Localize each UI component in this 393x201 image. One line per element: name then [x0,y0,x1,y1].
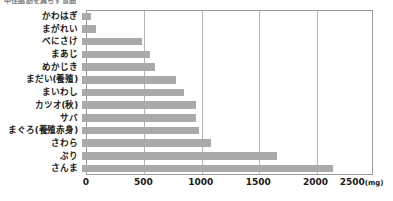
bar-row: まがれい [0,23,393,36]
bar-track [82,48,369,61]
bar-row: かわはぎ [0,10,393,23]
bar [82,89,184,97]
bar-track [82,61,369,74]
category-label: まがれい [0,25,82,34]
category-label: ぶり [0,152,82,161]
bar-track [82,99,369,112]
bar [82,114,196,122]
bar-track [82,162,369,175]
bar [82,127,199,135]
x-tick-label-2000: 2000 [303,178,328,187]
bar-track [82,124,369,137]
category-label: まあじ [0,50,82,59]
x-axis: 05001000150020002500(mg) [0,178,393,192]
x-tick-value: 2500 [340,177,365,187]
x-tick-value: 2000 [303,177,328,187]
x-tick-value: 0 [83,177,89,187]
bar-row: ぶり [0,150,393,163]
bar-row: まいわし [0,86,393,99]
bar-rows: かわはぎまがれいべにさけまあじめかじきまだい(養殖)まいわしカツオ(秋)サバまぐ… [0,10,393,175]
bar-track [82,86,369,99]
bar [82,25,96,33]
x-tick-value: 1000 [188,177,213,187]
category-label: まだい(養殖) [0,75,82,84]
bar [82,63,155,71]
bar-track [82,137,369,150]
bar-row: さんま [0,162,393,175]
x-tick-value: 500 [134,177,153,187]
category-label: べにさけ [0,37,82,46]
x-tick-label-1000: 1000 [188,178,213,187]
category-label: めかじき [0,63,82,72]
bar-track [82,23,369,36]
bar [82,165,333,173]
bar-row: べにさけ [0,35,393,48]
x-tick-label-0: 0 [83,178,89,187]
category-label: まいわし [0,88,82,97]
bar [82,101,196,109]
clipped-caption: 中性脂肪を減らす食品 [4,0,124,4]
bar [82,38,142,46]
bar-track [82,35,369,48]
x-tick-value: 1500 [246,177,271,187]
bar [82,76,176,84]
bar-row: まぐろ(養殖赤身) [0,124,393,137]
x-tick-label-2500: 2500(mg) [340,178,384,187]
bar-row: サバ [0,112,393,125]
bar-track [82,10,369,23]
bar-row: カツオ(秋) [0,99,393,112]
chart-figure: 中性脂肪を減らす食品 かわはぎまがれいべにさけまあじめかじきまだい(養殖)まいわ… [0,0,393,201]
x-tick-label-1500: 1500 [246,178,271,187]
bar [82,139,211,147]
bar [82,13,91,21]
bar-track [82,150,369,163]
category-label: さんま [0,164,82,173]
category-label: さわら [0,139,82,148]
bar-row: めかじき [0,61,393,74]
category-label: かわはぎ [0,12,82,21]
bar-row: まあじ [0,48,393,61]
x-tick-label-500: 500 [134,178,153,187]
category-label: カツオ(秋) [0,101,82,110]
bar-track [82,73,369,86]
bar [82,51,150,59]
bar-row: まだい(養殖) [0,73,393,86]
category-label: サバ [0,114,82,123]
bar [82,152,277,160]
category-label: まぐろ(養殖赤身) [0,126,82,135]
x-axis-unit-label: (mg) [365,179,384,187]
bar-track [82,112,369,125]
bar-row: さわら [0,137,393,150]
